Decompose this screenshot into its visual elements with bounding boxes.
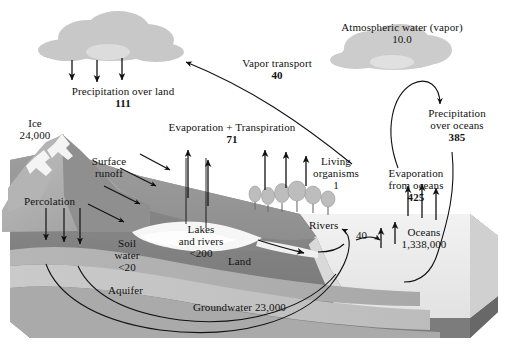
percolation-name: Percolation xyxy=(24,195,75,207)
evaporation-from-oceans-label: Evaporation from oceans 425 xyxy=(372,168,460,204)
ice-value: 24,000 xyxy=(20,129,51,141)
precip-oceans-line1: Precipitation xyxy=(428,107,486,119)
evaporation-transpiration-label: Evaporation + Transpiration 71 xyxy=(152,122,312,146)
cloud-over-land xyxy=(38,11,184,62)
oceans-value: 1,338,000 xyxy=(402,238,447,250)
surface-runoff-line1: Surface xyxy=(92,155,126,167)
aquifer-label: Aquifer xyxy=(108,285,143,297)
land-label: Land xyxy=(228,256,251,268)
living-organisms-line2: organisms xyxy=(313,167,359,179)
evap-oceans-line1: Evaporation xyxy=(389,167,444,179)
rivers-name: Rivers xyxy=(309,219,338,231)
atmospheric-water-value: 10.0 xyxy=(392,33,412,45)
lakes-line2: and rivers xyxy=(179,235,224,247)
atmospheric-water-name: Atmospheric water (vapor) xyxy=(341,21,463,33)
evaporation-transpiration-name: Evaporation + Transpiration xyxy=(169,121,296,133)
precip-oceans-line2: over oceans xyxy=(430,119,483,131)
water-cycle-figure: Atmospheric water (vapor) 10.0 Precipita… xyxy=(0,0,508,356)
lakes-line1: Lakes xyxy=(188,223,215,235)
evap-oceans-line2: from oceans xyxy=(388,179,443,191)
groundwater-value: 23,000 xyxy=(255,301,286,313)
vapor-transport-label: Vapor transport 40 xyxy=(222,58,332,82)
precipitation-over-land-name: Precipitation over land xyxy=(72,85,175,97)
lakes-value: <200 xyxy=(189,247,212,259)
rivers-value: 40 xyxy=(356,229,367,241)
percolation-label: Percolation xyxy=(24,196,75,208)
aquifer-name: Aquifer xyxy=(108,284,143,296)
evap-oceans-value: 425 xyxy=(408,191,425,203)
land-name: Land xyxy=(228,255,251,267)
vapor-transport-name: Vapor transport xyxy=(242,57,312,69)
evaporation-transpiration-value: 71 xyxy=(226,133,237,145)
soil-water-label: Soil water <20 xyxy=(100,238,154,274)
precipitation-over-oceans-label: Precipitation over oceans 385 xyxy=(414,108,500,144)
living-organisms-value: 1 xyxy=(333,179,339,191)
surface-runoff-label: Surface runoff xyxy=(78,156,140,180)
groundwater-label: Groundwater 23,000 xyxy=(193,302,286,314)
groundwater-name: Groundwater xyxy=(193,301,252,313)
soil-water-value: <20 xyxy=(118,261,136,273)
living-organisms-label: Living organisms 1 xyxy=(300,156,372,192)
precipitation-over-land-value: 111 xyxy=(115,97,131,109)
soil-water-line2: water xyxy=(115,249,140,261)
precipitation-over-land-arrows xyxy=(72,58,122,82)
oceans-label: Oceans 1,338,000 xyxy=(382,227,466,251)
ice-name: Ice xyxy=(28,117,42,129)
living-organisms-line1: Living xyxy=(321,155,351,167)
precip-oceans-value: 385 xyxy=(449,131,466,143)
rivers-label: Rivers xyxy=(309,220,338,232)
vapor-transport-value: 40 xyxy=(271,69,282,81)
lakes-and-rivers-label: Lakes and rivers <200 xyxy=(168,224,234,260)
precipitation-over-land-label: Precipitation over land 111 xyxy=(32,86,214,110)
oceans-name: Oceans xyxy=(408,226,441,238)
rivers-value-label: 40 xyxy=(356,230,367,242)
ice-label: Ice 24,000 xyxy=(4,118,66,142)
soil-water-line1: Soil xyxy=(118,237,136,249)
surface-runoff-line2: runoff xyxy=(95,167,123,179)
atmospheric-water-label: Atmospheric water (vapor) 10.0 xyxy=(312,22,492,46)
